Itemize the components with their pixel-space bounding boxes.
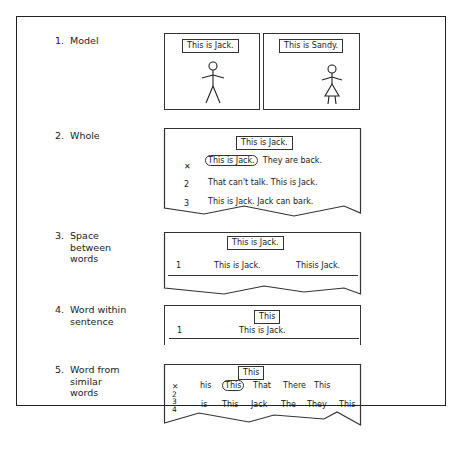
step-4-label: 4.Word withinsentence bbox=[55, 304, 126, 327]
step-3-label: 3.Spacebetweenwords bbox=[55, 230, 111, 265]
row-markers: ✕ 2 3 4 bbox=[172, 383, 178, 413]
within-sentence[interactable]: This is Jack. bbox=[239, 326, 286, 336]
within-target-word: This bbox=[254, 310, 280, 324]
circled-answer: This bbox=[222, 380, 244, 391]
whole-row-2[interactable]: That can't talk. This is Jack. bbox=[208, 178, 317, 188]
circled-answer: This is Jack. bbox=[205, 155, 258, 166]
answer-line bbox=[169, 338, 359, 339]
similar-target-word: This bbox=[238, 366, 264, 380]
similar-row-2-w4[interactable]: They bbox=[307, 400, 327, 410]
within-card: This 1 This is Jack. bbox=[164, 305, 361, 345]
similar-row-2-w1[interactable]: This bbox=[222, 400, 238, 410]
row-marker-2: 2 bbox=[184, 180, 189, 190]
whole-row-3[interactable]: This is Jack. Jack can bark. bbox=[208, 197, 313, 207]
answer-line bbox=[168, 275, 358, 276]
space-card: This is Jack. 1 This is Jack. Thisis Jac… bbox=[164, 232, 361, 296]
similar-row-2-w2[interactable]: Jack bbox=[251, 400, 267, 410]
row-marker-1: 1 bbox=[176, 261, 181, 271]
similar-row-2-w0[interactable]: is bbox=[201, 400, 207, 410]
row-marker-x: ✕ bbox=[184, 162, 191, 172]
similar-row-2-w3[interactable]: The bbox=[281, 400, 296, 410]
space-option-b[interactable]: Thisis Jack. bbox=[296, 261, 340, 271]
space-option-a[interactable]: This is Jack. bbox=[214, 261, 261, 271]
model-panel-jack: This is Jack. bbox=[164, 33, 260, 110]
whole-target-word: This is Jack. bbox=[236, 136, 293, 150]
space-target-word: This is Jack. bbox=[227, 236, 284, 250]
similar-row-2-w5[interactable]: This bbox=[339, 400, 355, 410]
similar-card: This ✕ 2 3 4 his This That There This is… bbox=[164, 364, 361, 446]
similar-row-1-w0[interactable]: his bbox=[200, 381, 211, 391]
step-2-label: 2.Whole bbox=[55, 130, 100, 142]
model-panel-sandy: This is Sandy. bbox=[263, 33, 360, 110]
similar-row-1-w1[interactable]: This bbox=[225, 381, 244, 391]
similar-row-1-w4[interactable]: This bbox=[314, 381, 330, 391]
step-1-label: 1.Model bbox=[55, 35, 99, 47]
boy-stick-figure-icon bbox=[165, 34, 261, 111]
girl-stick-figure-icon bbox=[264, 34, 361, 111]
whole-row-1[interactable]: This is Jack. They are back. bbox=[208, 156, 322, 166]
whole-card: This is Jack. ✕ This is Jack. They are b… bbox=[164, 128, 361, 220]
similar-row-1-w2[interactable]: That bbox=[253, 381, 271, 391]
row-marker-3: 3 bbox=[184, 199, 189, 209]
row-marker-1: 1 bbox=[177, 326, 182, 336]
similar-row-1-w3[interactable]: There bbox=[283, 381, 306, 391]
step-5-label: 5.Word fromsimilarwords bbox=[55, 364, 120, 399]
